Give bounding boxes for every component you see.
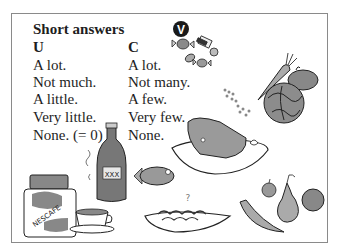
svg-text:?: ? bbox=[186, 193, 191, 203]
orange-icon bbox=[302, 189, 324, 211]
bottle-icon: XXX bbox=[97, 123, 126, 202]
banana-icon bbox=[240, 200, 284, 232]
steam-icon bbox=[86, 150, 90, 180]
coffee-jar-icon: NESCAFE bbox=[24, 175, 76, 237]
food-illustrations: V bbox=[0, 0, 339, 251]
svg-text:V: V bbox=[177, 23, 185, 37]
v-badge-icon: V bbox=[173, 21, 189, 37]
ham-plate-icon bbox=[172, 118, 268, 174]
fish-icon bbox=[134, 167, 174, 185]
svg-text:XXX: XXX bbox=[105, 171, 120, 179]
apple-icon bbox=[262, 179, 276, 197]
coffee-cup-icon bbox=[70, 209, 114, 233]
peas-icon bbox=[224, 89, 251, 117]
cabbage-icon bbox=[264, 83, 304, 123]
spaghetti-plate-icon: ? bbox=[145, 193, 230, 232]
candies-icon bbox=[172, 36, 218, 67]
pear-icon bbox=[278, 175, 299, 222]
